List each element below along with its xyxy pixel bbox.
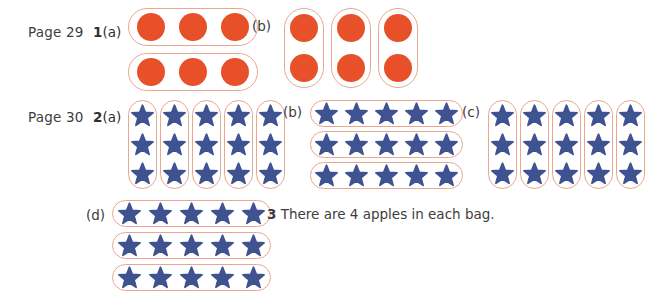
group-pill xyxy=(378,8,418,88)
orange-circle-icon xyxy=(179,58,207,86)
blue-star-icon xyxy=(259,104,282,127)
blue-star-icon xyxy=(345,102,368,125)
blue-star-icon xyxy=(345,164,368,187)
blue-star-icon xyxy=(375,102,398,125)
group-pill xyxy=(584,100,613,189)
question-2-part-d-label: (d) xyxy=(86,207,105,223)
blue-star-icon xyxy=(227,133,250,156)
blue-star-icon xyxy=(375,164,398,187)
orange-circle-icon xyxy=(221,13,249,41)
group-pill xyxy=(331,8,371,88)
blue-star-icon xyxy=(555,104,578,127)
blue-star-icon xyxy=(227,162,250,185)
blue-star-icon xyxy=(435,102,458,125)
question-number-1: 1(a) xyxy=(93,24,121,40)
page-label-29: Page 29 xyxy=(28,24,84,40)
group-pill xyxy=(224,100,253,189)
blue-star-icon xyxy=(435,133,458,156)
question-2-part-c-label: (c) xyxy=(462,104,480,120)
orange-circle-icon xyxy=(337,54,365,82)
question-number-3: 3 xyxy=(267,206,276,222)
blue-star-icon xyxy=(195,162,218,185)
blue-star-icon xyxy=(587,133,610,156)
blue-star-icon xyxy=(619,104,642,127)
blue-star-icon xyxy=(619,162,642,185)
orange-circle-icon xyxy=(290,54,318,82)
blue-star-icon xyxy=(149,202,172,225)
group-set-2c xyxy=(488,100,645,189)
blue-star-icon xyxy=(491,133,514,156)
blue-star-icon xyxy=(555,133,578,156)
blue-star-icon xyxy=(405,133,428,156)
group-pill xyxy=(310,162,463,189)
orange-circle-icon xyxy=(384,14,412,42)
blue-star-icon xyxy=(211,234,234,257)
question-number-2-digit: 2 xyxy=(93,109,102,125)
group-set-1a xyxy=(128,8,258,91)
blue-star-icon xyxy=(523,104,546,127)
group-pill xyxy=(112,264,271,291)
blue-star-icon xyxy=(195,133,218,156)
group-pill xyxy=(112,200,271,227)
blue-star-icon xyxy=(345,133,368,156)
blue-star-icon xyxy=(131,104,154,127)
orange-circle-icon xyxy=(221,58,249,86)
question-number-1-digit: 1 xyxy=(93,24,102,40)
blue-star-icon xyxy=(211,266,234,289)
blue-star-icon xyxy=(163,133,186,156)
group-pill xyxy=(128,53,258,91)
blue-star-icon xyxy=(405,102,428,125)
question-2-part-a-label: (a) xyxy=(102,109,121,125)
blue-star-icon xyxy=(211,202,234,225)
blue-star-icon xyxy=(491,162,514,185)
group-pill xyxy=(488,100,517,189)
blue-star-icon xyxy=(118,202,141,225)
blue-star-icon xyxy=(180,202,203,225)
blue-star-icon xyxy=(259,133,282,156)
blue-star-icon xyxy=(242,202,265,225)
blue-star-icon xyxy=(315,133,338,156)
blue-star-icon xyxy=(163,104,186,127)
orange-circle-icon xyxy=(179,13,207,41)
orange-circle-icon xyxy=(137,58,165,86)
blue-star-icon xyxy=(242,266,265,289)
question-1-part-a-label: (a) xyxy=(102,24,121,40)
blue-star-icon xyxy=(315,102,338,125)
blue-star-icon xyxy=(118,234,141,257)
blue-star-icon xyxy=(315,164,338,187)
group-pill xyxy=(284,8,324,88)
orange-circle-icon xyxy=(337,14,365,42)
blue-star-icon xyxy=(375,133,398,156)
blue-star-icon xyxy=(131,162,154,185)
group-set-2a xyxy=(128,100,285,189)
group-set-2b xyxy=(310,100,463,189)
blue-star-icon xyxy=(131,133,154,156)
blue-star-icon xyxy=(435,164,458,187)
blue-star-icon xyxy=(180,234,203,257)
blue-star-icon xyxy=(405,164,428,187)
blue-star-icon xyxy=(555,162,578,185)
blue-star-icon xyxy=(163,162,186,185)
page-label-30: Page 30 xyxy=(28,109,84,125)
group-pill xyxy=(310,131,463,158)
orange-circle-icon xyxy=(290,14,318,42)
blue-star-icon xyxy=(587,162,610,185)
blue-star-icon xyxy=(619,133,642,156)
blue-star-icon xyxy=(118,266,141,289)
blue-star-icon xyxy=(227,104,250,127)
question-3-text: There are 4 apples in each bag. xyxy=(281,206,495,222)
blue-star-icon xyxy=(259,162,282,185)
group-set-1b xyxy=(284,8,418,88)
group-pill xyxy=(160,100,189,189)
blue-star-icon xyxy=(242,234,265,257)
group-pill xyxy=(256,100,285,189)
blue-star-icon xyxy=(491,104,514,127)
question-number-2: 2(a) xyxy=(93,109,121,125)
group-pill xyxy=(192,100,221,189)
group-pill xyxy=(552,100,581,189)
group-pill xyxy=(520,100,549,189)
group-pill xyxy=(310,100,463,127)
group-pill xyxy=(128,8,258,46)
question-2-part-b-label: (b) xyxy=(283,104,302,120)
